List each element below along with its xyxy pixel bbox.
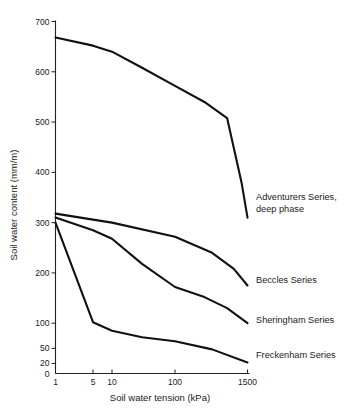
- x-axis: 15101001500: [53, 370, 257, 387]
- y-tick-label: 700: [35, 17, 49, 27]
- x-tick-label: 100: [168, 377, 182, 387]
- x-tick-label: 10: [107, 377, 117, 387]
- y-tick-label: 100: [35, 318, 49, 328]
- series-label-1: Beccles Series: [256, 275, 317, 285]
- series-line-3: [56, 223, 248, 363]
- y-axis: 02050100200300400500600700: [35, 17, 55, 379]
- series-line-1: [56, 214, 248, 286]
- series-label-0: Adventurers Series,: [256, 192, 337, 202]
- y-tick-label: 0: [45, 369, 50, 379]
- chart-canvas: 02050100200300400500600700 15101001500 A…: [0, 0, 353, 412]
- y-tick-label: 600: [35, 67, 49, 77]
- series-label-2: Sheringham Series: [256, 315, 335, 325]
- series-labels: Adventurers Series,deep phaseBeccles Ser…: [256, 192, 337, 360]
- y-tick-label: 500: [35, 117, 49, 127]
- x-axis-title: Soil water tension (kPa): [110, 392, 210, 403]
- series-line-0: [56, 38, 248, 218]
- y-tick-label: 300: [35, 218, 49, 228]
- y-tick-label: 20: [40, 358, 50, 368]
- y-tick-label: 200: [35, 268, 49, 278]
- y-axis-title: Soil water content (mm/m): [8, 150, 19, 261]
- x-tick-label: 1500: [238, 377, 257, 387]
- soil-water-retention-chart: 02050100200300400500600700 15101001500 A…: [0, 0, 353, 412]
- series-line-2: [56, 218, 248, 324]
- x-tick-label: 1: [53, 377, 58, 387]
- series-lines: [56, 38, 248, 363]
- x-tick-label: 5: [91, 377, 96, 387]
- y-tick-label: 50: [40, 343, 50, 353]
- y-tick-label: 400: [35, 167, 49, 177]
- series-label-3: Freckenham Series: [256, 350, 336, 360]
- series-label-0-line2: deep phase: [256, 204, 304, 214]
